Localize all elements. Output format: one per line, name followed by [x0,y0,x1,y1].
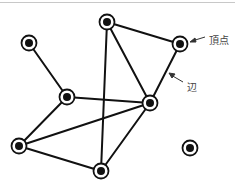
vertex-left [22,36,37,51]
edge-left-midleft [29,43,67,97]
graph-diagram [0,0,235,194]
edge-bottomleft-bottom [19,146,101,171]
edge-bottomleft-midright [19,103,150,146]
vertex-bottom [94,164,109,179]
vertex-midright [143,96,158,111]
edge-bottom-midright [101,103,150,171]
vertex-midleft [60,90,75,105]
edge-top-bottom [101,22,107,171]
edge-label: 辺 [187,79,197,94]
vertex-isolated [183,141,198,156]
vertex-bottomleft [12,139,27,154]
vertex-label: 頂点 [209,32,229,47]
vertex-topright [173,37,188,52]
edge-top-midright [107,22,150,103]
edge-midleft-midright [67,97,150,103]
vertex-top [100,15,115,30]
edge-topright-midright [150,44,180,103]
vertex-arrowhead-icon [190,38,196,42]
